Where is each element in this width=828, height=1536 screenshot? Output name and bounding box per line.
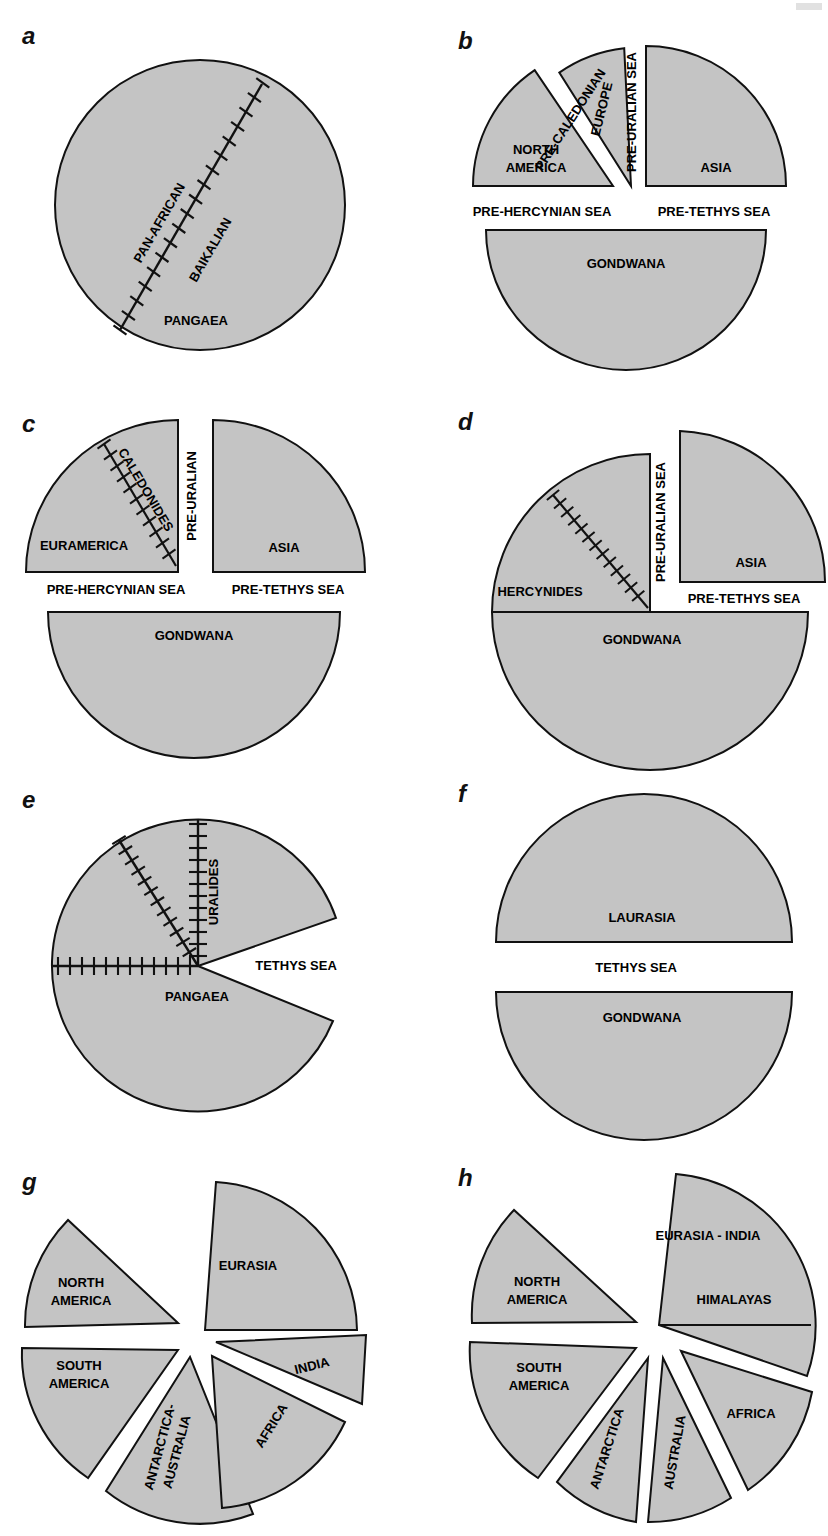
label-pre-uralian-sea-d: PRE-URALIAN SEA (653, 461, 668, 582)
label-eurasia-india-h: EURASIA - INDIA (656, 1228, 762, 1243)
label-uralides: URALIDES (206, 858, 221, 925)
panel-letter-h: h (458, 1164, 473, 1192)
sector-eurasia-india-h (659, 1174, 816, 1376)
label-asia-c: ASIA (268, 540, 300, 555)
label-pangaea: PANGAEA (164, 313, 229, 328)
panel-c-diagram: CALEDONIDES EURAMERICA PRE-URALIAN ASIA … (0, 400, 414, 770)
label-north-america-h-2: AMERICA (507, 1292, 568, 1307)
label-gondwana-c: GONDWANA (155, 628, 234, 643)
panel-e: e (0, 770, 414, 1160)
panel-b-diagram: NORTH AMERICA EUROPE PRE-CALEDONIAN PRE-… (414, 0, 828, 390)
label-pre-uralian: PRE-URALIAN (184, 451, 199, 541)
label-pre-tethys-sea-c: PRE-TETHYS SEA (232, 582, 345, 597)
pangaea-circle (55, 60, 345, 350)
label-euramerica: EURAMERICA (40, 538, 129, 553)
label-north-america-g-2: AMERICA (51, 1293, 112, 1308)
panel-d: d (414, 400, 828, 770)
panel-letter-c: c (22, 410, 35, 438)
label-gondwana-f: GONDWANA (603, 1010, 682, 1025)
label-pre-tethys-sea: PRE-TETHYS SEA (658, 204, 771, 219)
label-tethys-sea-f: TETHYS SEA (595, 960, 677, 975)
label-south-america-h-1: SOUTH (516, 1360, 562, 1375)
label-laurasia: LAURASIA (608, 910, 676, 925)
label-south-america-g-2: AMERICA (49, 1376, 110, 1391)
label-eurasia-g: EURASIA (219, 1258, 278, 1273)
panel-letter-d: d (458, 408, 473, 436)
panel-a: a (0, 0, 414, 390)
label-africa-h: AFRICA (726, 1406, 776, 1421)
label-pre-hercynian-sea-c: PRE-HERCYNIAN SEA (47, 582, 186, 597)
panel-f-diagram: LAURASIA TETHYS SEA GONDWANA (414, 770, 828, 1160)
label-tethys-sea-e: TETHYS SEA (255, 958, 337, 973)
label-asia: ASIA (700, 160, 732, 175)
sector-gondwana (486, 230, 766, 370)
label-south-america-g-1: SOUTH (56, 1358, 102, 1373)
panel-d-diagram: HERCYNIDES PRE-URALIAN SEA ASIA PRE-TETH… (414, 400, 828, 770)
panel-letter-f: f (458, 780, 466, 808)
figure-root: a (0, 0, 828, 1536)
label-south-america-h-2: AMERICA (509, 1378, 570, 1393)
panel-h: h EURASIA - INDIA HIMALAYAS NORTH AMERIC… (414, 1160, 828, 1536)
panel-c: c (0, 400, 414, 770)
panel-b: b NORTH AMERICA EUROPE PRE-CALEDONIAN PR… (414, 0, 828, 390)
label-north-america-g-1: NORTH (58, 1275, 104, 1290)
label-pre-hercynian-sea: PRE-HERCYNIAN SEA (473, 204, 612, 219)
panel-h-diagram: EURASIA - INDIA HIMALAYAS NORTH AMERICA … (414, 1160, 828, 1536)
label-pre-tethys-sea-d: PRE-TETHYS SEA (688, 591, 801, 606)
label-hercynides: HERCYNIDES (497, 584, 583, 599)
panel-g-diagram: EURASIA NORTH AMERICA SOUTH AMERICA ANTA… (0, 1160, 414, 1536)
panel-e-diagram: URALIDES TETHYS SEA PANGAEA (0, 770, 414, 1160)
label-gondwana-d: GONDWANA (603, 632, 682, 647)
panel-letter-e: e (22, 786, 35, 814)
label-north-america-h-1: NORTH (514, 1274, 560, 1289)
label-gondwana: GONDWANA (587, 256, 666, 271)
panel-f: f LAURASIA TETHYS SEA GONDWANA (414, 770, 828, 1160)
label-pre-uralian-sea: PRE-URALIAN SEA (624, 51, 639, 172)
panel-letter-a: a (22, 22, 35, 50)
label-asia-d: ASIA (735, 555, 767, 570)
label-pangaea-e: PANGAEA (165, 989, 230, 1004)
panel-a-diagram: PAN-AFRICAN BAIKALIAN PANGAEA (0, 0, 414, 390)
sector-eurasia-g (205, 1182, 357, 1330)
sector-north-america-g (25, 1220, 178, 1327)
label-himalayas-h: HIMALAYAS (697, 1292, 772, 1307)
panel-letter-b: b (458, 27, 473, 55)
panel-g: g EURASIA NORTH AMERICA SOUTH AMERICA AN… (0, 1160, 414, 1536)
panel-letter-g: g (22, 1168, 37, 1196)
